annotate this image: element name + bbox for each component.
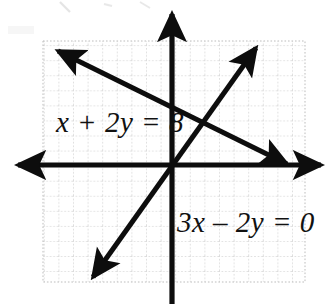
scan-artifacts bbox=[8, 2, 150, 34]
graph-figure: x + 2y = 8 3x – 2y = 0 bbox=[0, 0, 330, 304]
equation-label-2: 3x – 2y = 0 bbox=[177, 206, 315, 239]
equation-label-1: x + 2y = 8 bbox=[56, 106, 184, 139]
coordinate-graph-svg bbox=[0, 0, 330, 304]
